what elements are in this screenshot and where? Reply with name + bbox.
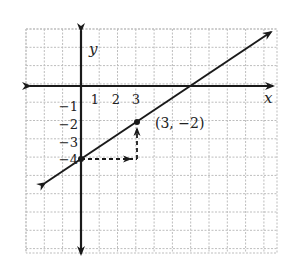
y-tick-neg2: −2 xyxy=(59,117,78,132)
y-axis-label: y xyxy=(88,40,98,58)
x-tick-3: 3 xyxy=(132,92,140,107)
y-tick-neg3: −3 xyxy=(59,135,78,150)
point-y-intercept xyxy=(78,156,84,162)
x-tick-1: 1 xyxy=(91,92,99,107)
y-tick-neg4: −4 xyxy=(59,152,78,167)
point-label: (3, −2) xyxy=(155,115,204,131)
point-3-neg2 xyxy=(134,119,140,125)
x-axis-label: x xyxy=(264,89,273,107)
coordinate-plane: y x 1 2 3 −1 −2 −3 −4 (3, −2) xyxy=(0,0,281,267)
x-tick-2: 2 xyxy=(112,92,120,107)
y-tick-neg1: −1 xyxy=(59,99,78,114)
